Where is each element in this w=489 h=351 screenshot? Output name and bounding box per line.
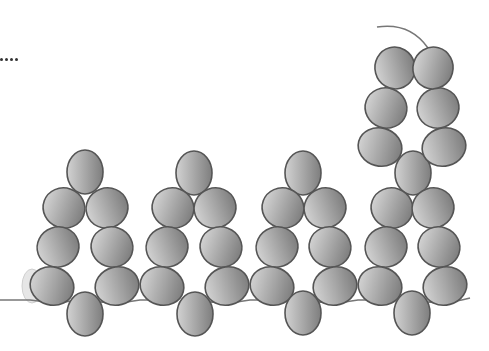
bead-m4-bottom [394, 291, 430, 335]
bead-m2-r3-l [140, 221, 193, 273]
ellipsis-dot [15, 58, 18, 61]
bead-pattern-svg [0, 0, 489, 351]
ellipsis-dots [0, 58, 18, 61]
bead-m1-r3-r [85, 221, 138, 273]
bead-m5-r1-r [408, 43, 458, 94]
bead-m5-r2-l [359, 82, 412, 134]
ellipsis-dot [0, 58, 3, 61]
bead-m5-r2-r [411, 82, 464, 134]
tail-thread [377, 26, 428, 48]
bead-m1-r3-l [31, 221, 84, 273]
ellipsis-dot [5, 58, 8, 61]
bead-m2-top [176, 151, 212, 195]
bead-m4-r3-r [412, 221, 465, 273]
bead-m3-r3-l [250, 221, 303, 273]
ellipsis-dot [10, 58, 13, 61]
bead-m3-r3-r [303, 221, 356, 273]
bead-m1-top [67, 150, 103, 194]
bead-m3-bottom [285, 291, 321, 335]
bead-m2-bottom [177, 292, 213, 336]
bead-m3-top [285, 151, 321, 195]
bead-layer [26, 43, 471, 336]
beadwork-diagram [0, 0, 489, 351]
bead-m4-r3-l [359, 221, 412, 273]
bead-m2-r3-r [194, 221, 247, 273]
bead-m1-bottom [67, 292, 103, 336]
